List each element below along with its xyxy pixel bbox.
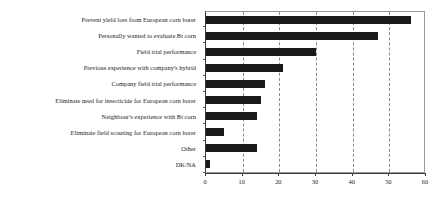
x-tick-label: 20 (275, 178, 281, 186)
x-tick (315, 173, 316, 176)
category-label: Company field trial performance (111, 80, 196, 87)
x-tick-label: 50 (385, 178, 391, 186)
bar-row (206, 44, 424, 60)
category-label-row: DK/NA (0, 157, 200, 173)
bar-row (206, 140, 424, 156)
category-label: Eliminate need for insecticide for Europ… (55, 97, 196, 104)
bar-row (206, 156, 424, 172)
category-label-row: Previous experience with company's hybri… (0, 60, 200, 76)
x-tick-label: 40 (348, 178, 354, 186)
bar (206, 64, 283, 72)
x-tick (425, 173, 426, 176)
bar-row (206, 28, 424, 44)
category-label-row: Field trial performance (0, 43, 200, 59)
bar-row (206, 124, 424, 140)
x-tick-label: 0 (203, 178, 206, 186)
category-label: DK/NA (176, 161, 196, 168)
x-tick (242, 173, 243, 176)
bar (206, 32, 378, 40)
category-label-row: Company field trial performance (0, 76, 200, 92)
category-label-row: Eliminate need for insecticide for Europ… (0, 92, 200, 108)
category-label-row: Prevent yield loss from European corn bo… (0, 11, 200, 27)
bar-row (206, 92, 424, 108)
x-tick-label: 10 (238, 178, 244, 186)
bar-chart: Prevent yield loss from European corn bo… (0, 0, 446, 202)
bar (206, 16, 411, 24)
x-tick-label: 30 (312, 178, 318, 186)
category-label-row: Eliminate field scouting for European co… (0, 124, 200, 140)
x-tick (388, 173, 389, 176)
category-label: Personally wanted to evaluate Bt corn (98, 32, 196, 39)
bar (206, 48, 316, 56)
bar (206, 160, 210, 168)
category-label-row: Personally wanted to evaluate Bt corn (0, 27, 200, 43)
category-label: Prevent yield loss from European corn bo… (82, 16, 196, 23)
category-label-row: Other (0, 141, 200, 157)
bar (206, 112, 257, 120)
bar (206, 128, 224, 136)
category-label: Other (181, 145, 196, 152)
category-label: Eliminate field scouting for European co… (70, 129, 196, 136)
category-label-row: Neighbour's experience with Bt corn (0, 108, 200, 124)
x-tick-label: 60 (422, 178, 428, 186)
category-label: Previous experience with company's hybri… (84, 64, 196, 71)
bar (206, 96, 261, 104)
category-axis-labels: Prevent yield loss from European corn bo… (0, 11, 200, 173)
x-tick (205, 173, 206, 176)
x-axis-ticks (205, 173, 425, 177)
category-label: Neighbour's experience with Bt corn (102, 113, 197, 120)
category-label: Field trial performance (137, 48, 196, 55)
bar (206, 144, 257, 152)
bar-row (206, 76, 424, 92)
bar (206, 80, 265, 88)
x-axis-tick-labels: 0102030405060 (205, 178, 425, 190)
x-tick (352, 173, 353, 176)
bar-row (206, 60, 424, 76)
x-tick (278, 173, 279, 176)
bar-series (206, 12, 424, 172)
bar-row (206, 12, 424, 28)
plot-area (205, 11, 425, 173)
bar-row (206, 108, 424, 124)
